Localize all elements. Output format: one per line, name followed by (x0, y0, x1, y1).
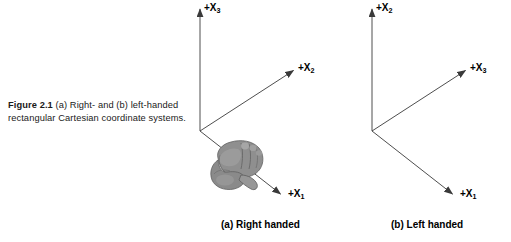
axis-line-x2-diagonal-up (200, 71, 294, 132)
axis-line-x1-diagonal-down (372, 131, 453, 194)
axis-label-x3-left-handed: +X3 (470, 63, 487, 73)
right-hand-icon (208, 136, 270, 194)
axis-label-x1-left-handed: +X1 (460, 189, 477, 199)
axis-label-x2-left-handed: +X2 (376, 3, 393, 13)
sub-caption-right-handed: (a) Right handed (221, 220, 300, 230)
coordinate-axes-svg (0, 0, 511, 242)
figure-container: Figure 2.1 (a) Right- and (b) left-hande… (0, 0, 511, 242)
axis-label-x3: +X3 (204, 3, 221, 13)
axis-label-x2: +X2 (298, 63, 315, 73)
sub-caption-left-handed: (b) Left handed (391, 220, 463, 230)
axis-label-x1: +X1 (288, 189, 305, 199)
axes-group-left-handed (372, 9, 466, 194)
axis-line-x3-diagonal-up (372, 71, 466, 132)
